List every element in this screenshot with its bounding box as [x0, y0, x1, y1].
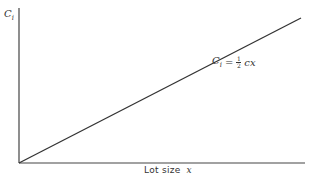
cost-line	[19, 18, 301, 163]
fraction-one-half: 1 2	[236, 56, 241, 69]
y-axis-label: Ci	[4, 8, 14, 22]
line-equation-annotation: Ci = 1 2 cx	[212, 55, 256, 69]
x-axis-label: Lot sizex	[144, 165, 192, 175]
chart-canvas	[0, 0, 309, 187]
